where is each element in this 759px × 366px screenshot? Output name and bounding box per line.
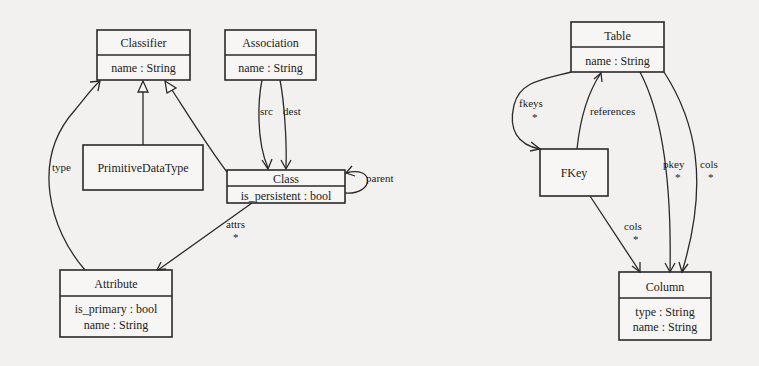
edge-label-type: type bbox=[52, 161, 71, 173]
hollow-triangle-icon bbox=[138, 81, 148, 92]
class-name-classifier: Classifier bbox=[121, 36, 167, 50]
attribute-column-type: type : String bbox=[635, 305, 694, 319]
attribute-column-name: name : String bbox=[633, 320, 698, 334]
edge-label-attrs: attrs bbox=[226, 218, 245, 230]
edge-label-references: references bbox=[590, 105, 635, 117]
edge-association-dest: dest bbox=[280, 80, 301, 169]
edge-mult-attrs: * bbox=[233, 231, 239, 243]
class-name-column: Column bbox=[646, 280, 685, 294]
class-name-table: Table bbox=[604, 29, 630, 43]
class-box-table: Table name : String bbox=[571, 22, 664, 72]
edge-mult-pkey: * bbox=[675, 171, 681, 183]
hollow-triangle-icon bbox=[165, 81, 176, 93]
edge-label-fkeys: fkeys bbox=[519, 97, 543, 109]
attribute-table-name: name : String bbox=[585, 54, 650, 68]
class-name-attribute: Attribute bbox=[94, 277, 137, 291]
attribute-attribute-is-primary: is_primary : bool bbox=[75, 302, 158, 316]
edge-label-src: src bbox=[260, 105, 273, 117]
attribute-association-name: name : String bbox=[238, 61, 303, 75]
edge-association-src: src bbox=[259, 80, 273, 169]
class-box-fkey: FKey bbox=[540, 149, 608, 196]
attribute-attribute-name: name : String bbox=[84, 318, 149, 332]
edge-label-cols-fkey: cols bbox=[624, 220, 642, 232]
edge-label-pkey: pkey bbox=[663, 158, 685, 170]
class-box-primitive-data-type: PrimitiveDataType bbox=[83, 145, 203, 190]
edge-fkey-cols: cols * bbox=[590, 196, 642, 272]
edge-generalization-primitive bbox=[138, 81, 148, 145]
edge-mult-cols-table: * bbox=[708, 171, 714, 183]
edge-class-attrs: attrs * bbox=[157, 203, 252, 270]
class-name-primitive-data-type: PrimitiveDataType bbox=[97, 161, 188, 175]
edge-class-parent: parent bbox=[345, 166, 393, 193]
edge-label-cols-table: cols bbox=[700, 158, 718, 170]
class-box-attribute: Attribute is_primary : bool name : Strin… bbox=[60, 270, 172, 337]
edge-mult-fkeys: * bbox=[532, 111, 538, 123]
edge-table-fkeys: fkeys * bbox=[512, 72, 571, 151]
attribute-class-is-persistent: is_persistent : bool bbox=[241, 189, 332, 203]
class-box-association: Association name : String bbox=[225, 30, 316, 80]
edge-fkey-references: references bbox=[577, 73, 635, 149]
class-box-column: Column type : String name : String bbox=[619, 272, 711, 340]
class-name-fkey: FKey bbox=[561, 166, 588, 180]
arrowhead-icon bbox=[346, 166, 355, 176]
class-box-class: Class is_persistent : bool bbox=[227, 170, 345, 203]
edge-label-parent: parent bbox=[366, 172, 393, 184]
edge-table-pkey: pkey * bbox=[640, 72, 685, 272]
edge-table-cols: cols * bbox=[664, 72, 718, 272]
class-box-classifier: Classifier name : String bbox=[97, 30, 190, 80]
uml-diagram: Classifier name : String Association nam… bbox=[0, 0, 759, 366]
edge-mult-cols-fkey: * bbox=[633, 233, 639, 245]
class-name-association: Association bbox=[242, 36, 299, 50]
class-name-class: Class bbox=[273, 172, 299, 186]
attribute-classifier-name: name : String bbox=[111, 61, 176, 75]
edge-label-dest: dest bbox=[283, 105, 301, 117]
